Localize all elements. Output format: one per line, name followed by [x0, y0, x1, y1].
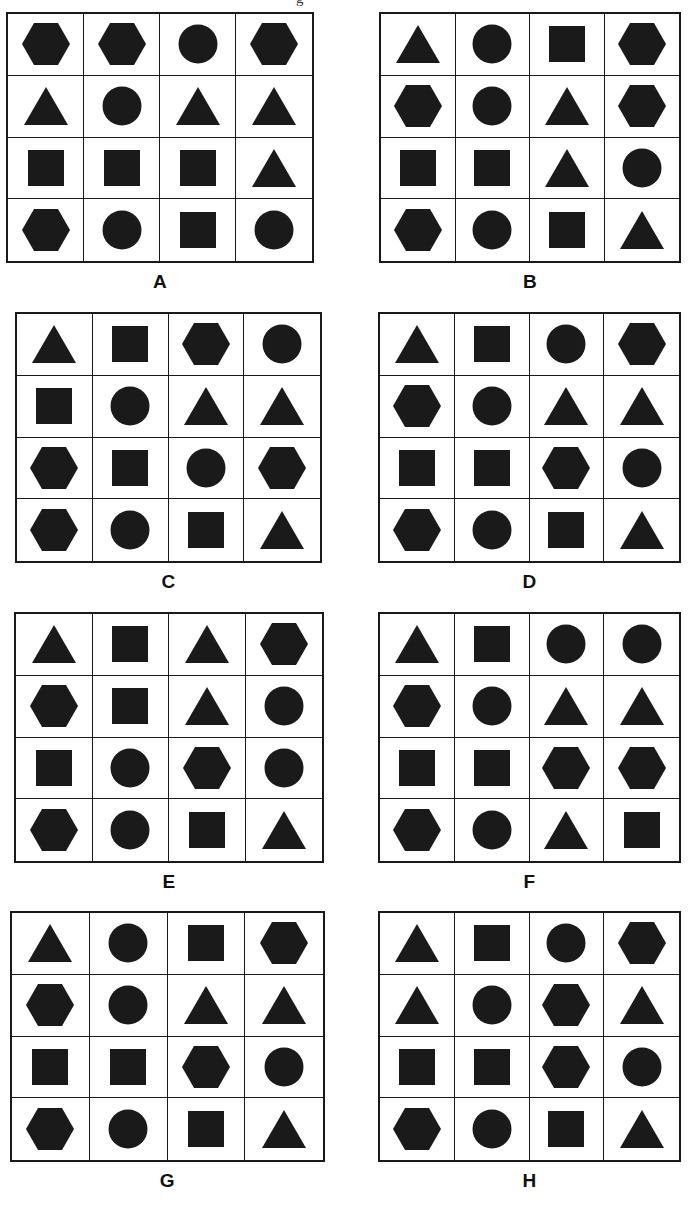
grid-cell[interactable] — [455, 314, 530, 376]
grid-cell[interactable] — [604, 738, 679, 800]
grid-cell[interactable] — [84, 199, 160, 261]
grid-cell[interactable] — [169, 376, 245, 438]
grid-cell[interactable] — [604, 314, 679, 376]
grid-cell[interactable] — [90, 913, 168, 975]
grid-cell[interactable] — [604, 676, 679, 738]
grid-cell[interactable] — [455, 1098, 530, 1160]
grid-cell[interactable] — [455, 499, 530, 561]
grid-cell[interactable] — [244, 314, 320, 376]
grid-cell[interactable] — [90, 975, 168, 1037]
grid-cell[interactable] — [16, 614, 93, 676]
grid-cell[interactable] — [169, 676, 246, 738]
grid-cell[interactable] — [530, 438, 605, 500]
grid-cell[interactable] — [455, 438, 530, 500]
grid-cell[interactable] — [8, 138, 84, 200]
grid-cell[interactable] — [8, 76, 84, 138]
grid-cell[interactable] — [605, 14, 680, 76]
grid-cell[interactable] — [168, 1037, 246, 1099]
grid-cell[interactable] — [455, 614, 530, 676]
grid-cell[interactable] — [455, 376, 530, 438]
grid-cell[interactable] — [244, 438, 320, 500]
grid-cell[interactable] — [530, 1037, 605, 1099]
grid-cell[interactable] — [93, 738, 170, 800]
grid-cell[interactable] — [84, 14, 160, 76]
grid-cell[interactable] — [456, 76, 531, 138]
grid-cell[interactable] — [530, 676, 605, 738]
grid-cell[interactable] — [381, 14, 456, 76]
grid-cell[interactable] — [17, 376, 93, 438]
grid-cell[interactable] — [530, 499, 605, 561]
grid-cell[interactable] — [604, 913, 679, 975]
grid-cell[interactable] — [93, 499, 169, 561]
grid-cell[interactable] — [16, 799, 93, 861]
grid-cell[interactable] — [246, 614, 323, 676]
grid-cell[interactable] — [84, 76, 160, 138]
grid-cell[interactable] — [530, 913, 605, 975]
grid-cell[interactable] — [604, 1037, 679, 1099]
grid-cell[interactable] — [90, 1098, 168, 1160]
grid-cell[interactable] — [245, 1098, 323, 1160]
grid-cell[interactable] — [530, 738, 605, 800]
grid-cell[interactable] — [12, 1098, 90, 1160]
grid-cell[interactable] — [93, 314, 169, 376]
grid-cell[interactable] — [17, 314, 93, 376]
grid-cell[interactable] — [380, 438, 455, 500]
grid-cell[interactable] — [381, 76, 456, 138]
grid-cell[interactable] — [12, 1037, 90, 1099]
grid-cell[interactable] — [236, 76, 312, 138]
grid-cell[interactable] — [169, 738, 246, 800]
grid-cell[interactable] — [93, 676, 170, 738]
grid-cell[interactable] — [244, 499, 320, 561]
grid-cell[interactable] — [605, 199, 680, 261]
grid-cell[interactable] — [604, 1098, 679, 1160]
grid-cell[interactable] — [8, 199, 84, 261]
grid-cell[interactable] — [380, 738, 455, 800]
grid-cell[interactable] — [169, 499, 245, 561]
grid-cell[interactable] — [604, 614, 679, 676]
grid-cell[interactable] — [169, 799, 246, 861]
grid-cell[interactable] — [169, 438, 245, 500]
grid-cell[interactable] — [12, 975, 90, 1037]
grid-cell[interactable] — [168, 913, 246, 975]
grid-cell[interactable] — [380, 913, 455, 975]
grid-cell[interactable] — [160, 199, 236, 261]
grid-cell[interactable] — [93, 438, 169, 500]
grid-cell[interactable] — [455, 913, 530, 975]
grid-cell[interactable] — [16, 676, 93, 738]
grid-cell[interactable] — [381, 138, 456, 200]
grid-cell[interactable] — [93, 376, 169, 438]
grid-cell[interactable] — [530, 614, 605, 676]
grid-cell[interactable] — [604, 799, 679, 861]
grid-cell[interactable] — [380, 676, 455, 738]
grid-cell[interactable] — [530, 314, 605, 376]
grid-cell[interactable] — [605, 76, 680, 138]
grid-cell[interactable] — [246, 799, 323, 861]
grid-cell[interactable] — [245, 975, 323, 1037]
grid-cell[interactable] — [84, 138, 160, 200]
grid-cell[interactable] — [245, 1037, 323, 1099]
grid-cell[interactable] — [380, 499, 455, 561]
grid-cell[interactable] — [8, 14, 84, 76]
grid-cell[interactable] — [169, 614, 246, 676]
grid-cell[interactable] — [244, 376, 320, 438]
grid-cell[interactable] — [380, 376, 455, 438]
grid-cell[interactable] — [530, 975, 605, 1037]
grid-cell[interactable] — [604, 376, 679, 438]
grid-cell[interactable] — [455, 738, 530, 800]
grid-cell[interactable] — [16, 738, 93, 800]
grid-cell[interactable] — [530, 799, 605, 861]
grid-cell[interactable] — [246, 676, 323, 738]
grid-cell[interactable] — [380, 1037, 455, 1099]
grid-cell[interactable] — [380, 614, 455, 676]
grid-cell[interactable] — [604, 499, 679, 561]
grid-cell[interactable] — [530, 76, 605, 138]
grid-cell[interactable] — [17, 499, 93, 561]
grid-cell[interactable] — [169, 314, 245, 376]
grid-cell[interactable] — [12, 913, 90, 975]
grid-cell[interactable] — [381, 199, 456, 261]
grid-cell[interactable] — [530, 138, 605, 200]
grid-cell[interactable] — [168, 1098, 246, 1160]
grid-cell[interactable] — [160, 14, 236, 76]
grid-cell[interactable] — [90, 1037, 168, 1099]
grid-cell[interactable] — [604, 975, 679, 1037]
